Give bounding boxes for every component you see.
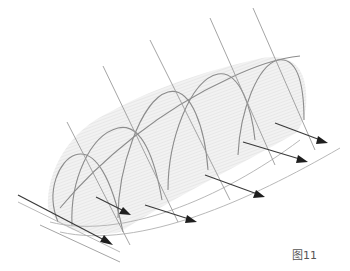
arrowhead-icon bbox=[316, 136, 328, 144]
tunnel-structure-diagram bbox=[0, 0, 350, 271]
figure-label: 图11 bbox=[292, 246, 317, 262]
arrowhead-icon bbox=[253, 190, 265, 198]
arrow-4 bbox=[205, 175, 265, 198]
membrane bbox=[48, 57, 306, 234]
arrowhead-icon bbox=[296, 155, 308, 163]
